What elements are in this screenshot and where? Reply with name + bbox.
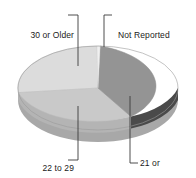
- leader-lines: [0, 0, 196, 178]
- pie-chart-figure: 30 or Older 33% Not Reported 1% 22 to 29…: [0, 0, 196, 178]
